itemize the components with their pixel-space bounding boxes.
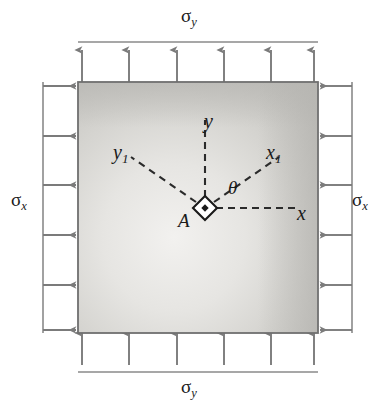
- sigma-y-bottom-arrows: [82, 333, 314, 365]
- angle-theta-label: θ: [228, 178, 237, 197]
- sigma-x-right-label: σx: [352, 190, 368, 212]
- sigma-glyph: σ: [181, 376, 191, 397]
- stress-element-figure: σy σy σx σx y x x1 y1 A θ: [0, 0, 392, 413]
- axis-y1-subscript: 1: [122, 151, 129, 166]
- axis-x1-subscript: 1: [275, 151, 282, 166]
- sigma-y-top-arrows: [82, 50, 314, 82]
- point-a-label: A: [178, 211, 190, 230]
- sigma-glyph: σ: [181, 5, 191, 26]
- sigma-y-subscript: y: [191, 15, 197, 29]
- axis-x1-letter: x: [266, 141, 275, 163]
- sigma-x-left-arrows: [43, 86, 76, 330]
- axis-x-label: x: [297, 203, 306, 223]
- stress-diagram-svg: [0, 0, 392, 413]
- axis-x1-label: x1: [266, 142, 281, 165]
- sigma-y-top-label: σy: [181, 6, 197, 28]
- sigma-glyph: σ: [352, 189, 362, 210]
- sigma-x-left-label: σx: [11, 190, 27, 212]
- axis-y1-letter: y: [113, 141, 122, 163]
- sigma-y-bottom-label: σy: [181, 377, 197, 399]
- axis-y1-label: y1: [113, 142, 128, 165]
- axis-y-label: y: [204, 111, 213, 131]
- sigma-x-right-arrows: [320, 86, 352, 330]
- sigma-x-subscript: x: [21, 199, 27, 213]
- sigma-x-subscript: x: [362, 199, 368, 213]
- sigma-y-subscript: y: [191, 386, 197, 400]
- sigma-glyph: σ: [11, 189, 21, 210]
